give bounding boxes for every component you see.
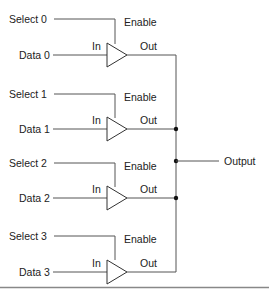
output-label: Output xyxy=(224,155,256,167)
buffer-stage-1: Select 1 Enable Data 1 In Out xyxy=(9,88,176,141)
in-2-label: In xyxy=(92,183,101,195)
buffer-0-triangle-icon xyxy=(107,43,127,67)
data-1-label: Data 1 xyxy=(19,123,50,135)
select-3-wire xyxy=(54,236,115,260)
data-3-label: Data 3 xyxy=(19,266,50,278)
in-1-label: In xyxy=(92,114,101,126)
select-2-label: Select 2 xyxy=(9,157,47,169)
select-2-wire xyxy=(54,163,115,187)
in-0-label: In xyxy=(92,40,101,52)
enable-0-label: Enable xyxy=(124,16,157,28)
out-3-label: Out xyxy=(140,257,157,269)
out-0-label: Out xyxy=(140,40,157,52)
data-2-label: Data 2 xyxy=(19,192,50,204)
buffer-3-triangle-icon xyxy=(107,260,127,284)
select-1-label: Select 1 xyxy=(9,88,47,100)
select-0-wire xyxy=(54,19,115,44)
enable-3-label: Enable xyxy=(124,233,157,245)
select-1-wire xyxy=(54,94,115,118)
junction-dot-icon xyxy=(174,196,178,200)
output-bus: Output xyxy=(174,55,256,272)
buffer-stage-2: Select 2 Enable Data 2 In Out xyxy=(9,157,176,210)
select-3-label: Select 3 xyxy=(9,230,47,242)
buffer-stage-3: Select 3 Enable Data 3 In Out xyxy=(9,230,176,284)
in-3-label: In xyxy=(92,257,101,269)
enable-1-label: Enable xyxy=(124,91,157,103)
buffer-1-triangle-icon xyxy=(107,117,127,141)
data-0-label: Data 0 xyxy=(19,49,50,61)
junction-dot-icon xyxy=(174,127,178,131)
buffer-2-triangle-icon xyxy=(107,186,127,210)
enable-2-label: Enable xyxy=(124,160,157,172)
multiplexer-diagram: Select 0 Enable Data 0 In Out Select 1 E… xyxy=(0,0,269,299)
buffer-stage-0: Select 0 Enable Data 0 In Out xyxy=(9,13,176,67)
out-2-label: Out xyxy=(140,183,157,195)
select-0-label: Select 0 xyxy=(9,13,47,25)
out-1-label: Out xyxy=(140,114,157,126)
